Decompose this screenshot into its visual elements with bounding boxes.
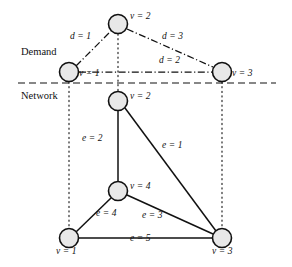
graph-figure: Demand Network v = 2 v = 1 v = 3 d = 1 d… bbox=[0, 0, 292, 267]
network-edge-e4-label: e = 4 bbox=[96, 208, 117, 218]
diagram-canvas bbox=[0, 0, 292, 267]
demand-node-v1-label: v = 1 bbox=[79, 68, 100, 78]
network-node-v3[interactable] bbox=[213, 229, 232, 248]
network-node-v1[interactable] bbox=[60, 229, 79, 248]
network-node-v3-label: v = 3 bbox=[212, 246, 233, 256]
network-node-v2-label: v = 2 bbox=[130, 91, 151, 101]
network-edge-e1-label: e = 1 bbox=[162, 140, 183, 150]
demand-node-v1[interactable] bbox=[60, 63, 79, 82]
demand-node-v3-label: v = 3 bbox=[232, 68, 253, 78]
demand-section-label: Demand bbox=[21, 46, 57, 57]
demand-edges-group bbox=[76, 29, 213, 72]
network-edge-e3-label: e = 3 bbox=[142, 210, 163, 220]
demand-node-v3[interactable] bbox=[213, 63, 232, 82]
network-nodes-group bbox=[60, 92, 232, 248]
demand-edge-d2-label: d = 2 bbox=[159, 55, 180, 65]
network-node-v1-label: v = 1 bbox=[56, 246, 77, 256]
demand-node-v2-label: v = 2 bbox=[130, 11, 151, 21]
network-node-v2[interactable] bbox=[109, 92, 128, 111]
network-section-label: Network bbox=[21, 90, 58, 101]
network-edge-e5-label: e = 5 bbox=[130, 233, 151, 243]
demand-edge-d1-label: d = 1 bbox=[70, 31, 91, 41]
network-edge-e3 bbox=[127, 195, 213, 234]
mapping-lines-group bbox=[69, 34, 222, 229]
network-edge-e1 bbox=[125, 108, 216, 231]
demand-node-v2[interactable] bbox=[109, 15, 128, 34]
network-node-v4[interactable] bbox=[109, 182, 128, 201]
network-node-v4-label: v = 4 bbox=[130, 181, 151, 191]
demand-edge-d3-label: d = 3 bbox=[162, 31, 183, 41]
network-edge-e2-label: e = 2 bbox=[82, 133, 103, 143]
